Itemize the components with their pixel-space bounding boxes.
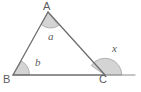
angle-label-a: a: [48, 31, 54, 42]
geometry-figure: A B C a b x: [0, 0, 141, 92]
angle-arc-b: [13, 61, 30, 75]
triangle-diagram-svg: [0, 0, 141, 92]
angle-label-b: b: [35, 57, 41, 68]
vertex-label-c: C: [99, 74, 107, 85]
angle-label-x: x: [112, 43, 117, 54]
vertex-label-a: A: [43, 1, 50, 12]
vertex-label-b: B: [3, 74, 10, 85]
segment-AB: [13, 12, 48, 75]
segment-AC: [48, 12, 105, 75]
